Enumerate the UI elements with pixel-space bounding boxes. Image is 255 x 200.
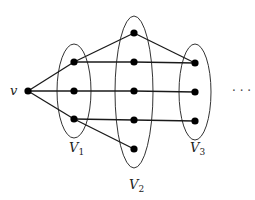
edge <box>28 91 74 119</box>
edge <box>74 119 134 149</box>
vertex-v3 <box>191 117 198 124</box>
vertex-v2 <box>130 145 137 152</box>
graph-edges <box>28 33 195 149</box>
edge <box>134 120 195 121</box>
partition-label-v3: V3 <box>190 140 205 157</box>
edge <box>74 119 134 120</box>
vertex-v3 <box>191 88 198 95</box>
partition-label-v2: V2 <box>129 177 144 194</box>
continuation-ellipsis: · · · <box>232 84 251 98</box>
edge <box>134 62 195 63</box>
layered-graph-diagram: v · · · V1V2V3 <box>0 0 255 200</box>
graph-labels: v · · · V1V2V3 <box>10 83 251 194</box>
vertex-v2 <box>130 116 137 123</box>
edge <box>28 62 74 91</box>
edge <box>134 33 195 63</box>
vertex-v1 <box>70 87 77 94</box>
vertex-v1 <box>70 115 77 122</box>
vertex-v2 <box>130 58 137 65</box>
vertex-v <box>24 87 31 94</box>
vertex-v2 <box>130 29 137 36</box>
vertex-v2 <box>130 87 137 94</box>
vertex-v3 <box>191 59 198 66</box>
edge <box>74 33 134 62</box>
vertex-v1 <box>70 58 77 65</box>
partition-label-v1: V1 <box>69 140 84 157</box>
diagram-svg: v · · · V1V2V3 <box>0 0 255 200</box>
edge <box>134 91 195 92</box>
vertex-label-v: v <box>10 83 18 98</box>
